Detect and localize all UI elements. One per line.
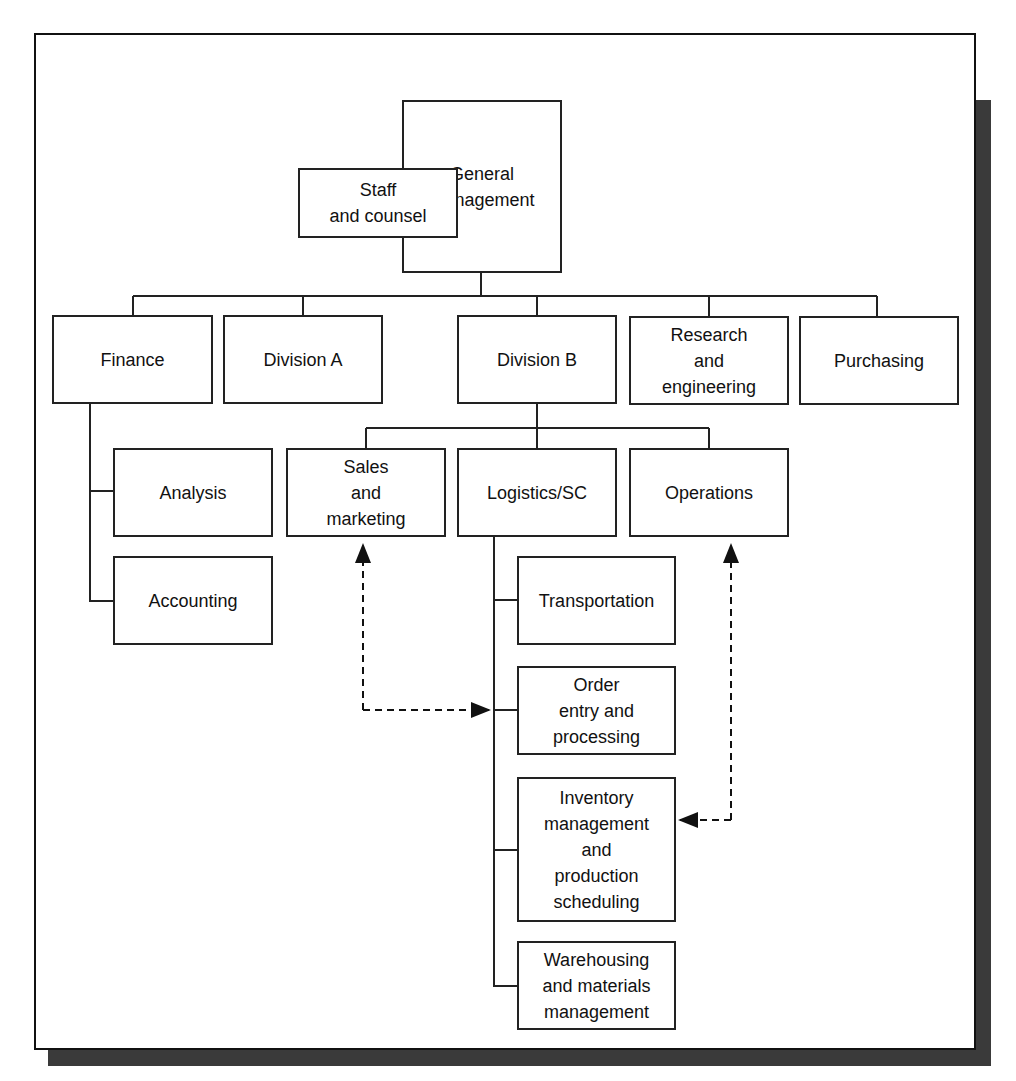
box-sales-and-marketing: Sales and marketing — [286, 448, 446, 537]
box-staff-and-counsel: Staff and counsel — [298, 168, 458, 238]
box-order-entry-and-processing: Order entry and processing — [517, 666, 676, 755]
box-research-and-engineering: Research and engineering — [629, 316, 789, 405]
box-warehousing-and-materials: Warehousing and materials management — [517, 941, 676, 1030]
box-division-a: Division A — [223, 315, 383, 404]
box-finance: Finance — [52, 315, 213, 404]
box-accounting: Accounting — [113, 556, 273, 645]
box-transportation: Transportation — [517, 556, 676, 645]
box-inventory-management: Inventory management and production sche… — [517, 777, 676, 922]
box-logistics-sc: Logistics/SC — [457, 448, 617, 537]
box-purchasing: Purchasing — [799, 316, 959, 405]
box-division-b: Division B — [457, 315, 617, 404]
box-analysis: Analysis — [113, 448, 273, 537]
box-operations: Operations — [629, 448, 789, 537]
